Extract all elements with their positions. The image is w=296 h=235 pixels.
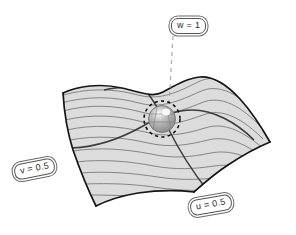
surface-body: [63, 77, 270, 206]
label-w-equals-1: w = 1: [171, 18, 206, 34]
saddle-surface-figure: [0, 0, 296, 235]
